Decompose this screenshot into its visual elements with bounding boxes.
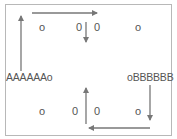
- top-node-4: o: [135, 22, 141, 33]
- bottom-node-4: o: [135, 106, 141, 117]
- bottom-node-1: o: [39, 106, 45, 117]
- top-node-3: 0: [94, 22, 100, 33]
- right-label: oBBBBBB: [127, 72, 173, 83]
- arrows-layer: [0, 0, 177, 139]
- left-label: AAAAAAo: [6, 72, 52, 83]
- bottom-node-2: 0: [72, 106, 78, 117]
- top-node-2: 0: [76, 22, 82, 33]
- top-node-1: o: [39, 22, 45, 33]
- bottom-node-3: 0: [94, 106, 100, 117]
